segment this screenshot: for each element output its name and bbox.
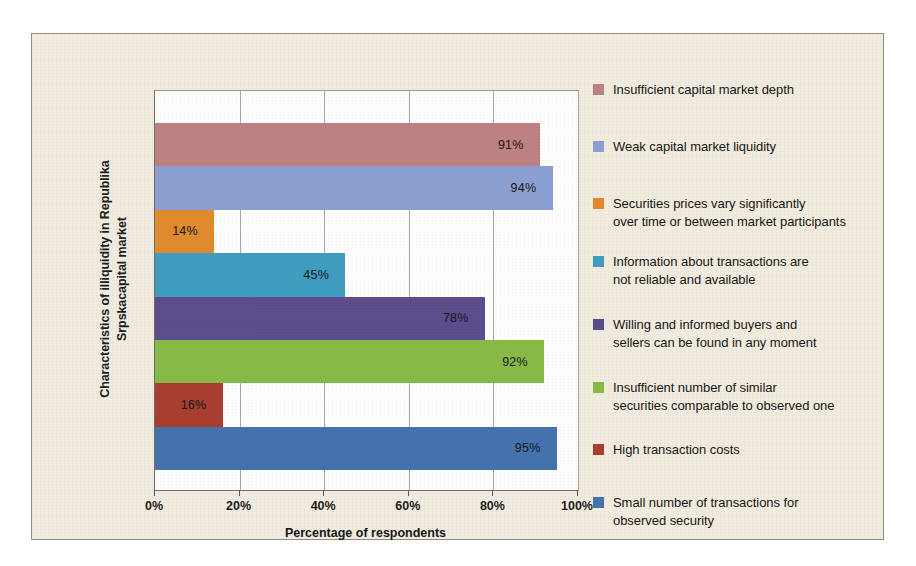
- bar-value-label: 78%: [443, 311, 469, 325]
- legend-item[interactable]: Weak capital market liquidity: [593, 138, 776, 156]
- legend-swatch-icon: [593, 141, 604, 152]
- legend-item[interactable]: Small number of transactions for observe…: [593, 494, 799, 529]
- gridline: [578, 91, 579, 490]
- legend-swatch-icon: [593, 198, 604, 209]
- bar-value-label: 92%: [502, 355, 528, 369]
- bar-row: 16%: [155, 383, 578, 426]
- legend-swatch-icon: [593, 319, 604, 330]
- bar[interactable]: [155, 166, 553, 209]
- legend-label: Weak capital market liquidity: [613, 138, 776, 156]
- x-axis-tick-label: 40%: [311, 499, 336, 513]
- legend-label: Insufficient number of similar securitie…: [613, 379, 834, 414]
- legend-label: Insufficient capital market depth: [613, 81, 794, 99]
- chart-card: Characteristics of illiquidity in Republ…: [31, 33, 884, 540]
- plot-area: 91%94%14%45%78%92%16%95%: [154, 90, 579, 491]
- x-axis-tick: [577, 490, 578, 496]
- bar-value-label: 91%: [498, 138, 524, 152]
- x-axis-title: Percentage of respondents: [154, 526, 577, 540]
- bar-value-label: 94%: [511, 181, 537, 195]
- bar-value-label: 95%: [515, 441, 541, 455]
- legend-swatch-icon: [593, 256, 604, 267]
- x-axis-tick: [492, 490, 493, 496]
- x-axis-tick-label: 80%: [480, 499, 505, 513]
- bar-value-label: 16%: [181, 398, 207, 412]
- x-axis-tick-label: 20%: [226, 499, 251, 513]
- legend-item[interactable]: Insufficient number of similar securitie…: [593, 379, 834, 414]
- legend-swatch-icon: [593, 382, 604, 393]
- legend-item[interactable]: Insufficient capital market depth: [593, 81, 794, 99]
- bar-row: 14%: [155, 210, 578, 253]
- x-axis-tick: [323, 490, 324, 496]
- bar-value-label: 45%: [303, 268, 329, 282]
- bar-row: 92%: [155, 340, 578, 383]
- legend-label: Information about transactions are not r…: [613, 253, 809, 288]
- bar[interactable]: [155, 123, 540, 166]
- legend-item[interactable]: High transaction costs: [593, 441, 740, 459]
- bar[interactable]: [155, 297, 485, 340]
- bar-value-label: 14%: [172, 224, 198, 238]
- legend-label: Willing and informed buyers and sellers …: [613, 316, 817, 351]
- legend-swatch-icon: [593, 497, 604, 508]
- legend-item[interactable]: Securities prices vary significantly ove…: [593, 195, 846, 230]
- bar-row: 78%: [155, 297, 578, 340]
- legend-swatch-icon: [593, 84, 604, 95]
- x-axis-tick: [154, 490, 155, 496]
- legend-label: Securities prices vary significantly ove…: [613, 195, 846, 230]
- x-axis: 0%20%40%60%80%100%: [154, 490, 577, 520]
- bar-series: 91%94%14%45%78%92%16%95%: [155, 123, 578, 470]
- legend-label: Small number of transactions for observe…: [613, 494, 799, 529]
- bar[interactable]: [155, 427, 557, 470]
- bar-row: 91%: [155, 123, 578, 166]
- legend-item[interactable]: Willing and informed buyers and sellers …: [593, 316, 817, 351]
- bar-row: 94%: [155, 166, 578, 209]
- x-axis-tick-label: 0%: [145, 499, 163, 513]
- y-axis-title: Characteristics of illiquidity in Republ…: [97, 79, 137, 479]
- chart-screenshot: Characteristics of illiquidity in Republ…: [0, 0, 916, 566]
- legend-swatch-icon: [593, 444, 604, 455]
- bar-row: 45%: [155, 253, 578, 296]
- x-axis-tick-label: 100%: [561, 499, 593, 513]
- legend-label: High transaction costs: [613, 441, 740, 459]
- x-axis-tick: [408, 490, 409, 496]
- x-axis-tick: [239, 490, 240, 496]
- legend-item[interactable]: Information about transactions are not r…: [593, 253, 809, 288]
- bar-row: 95%: [155, 427, 578, 470]
- x-axis-tick-label: 60%: [395, 499, 420, 513]
- bar[interactable]: [155, 340, 544, 383]
